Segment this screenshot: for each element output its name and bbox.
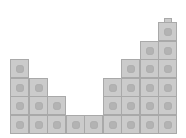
cube (103, 78, 122, 97)
cube-dot-icon (16, 121, 24, 129)
cube-dot-icon (16, 102, 24, 110)
cube (158, 41, 177, 60)
cube-stack-diagram (0, 0, 186, 138)
cube (140, 78, 159, 97)
cube (47, 96, 66, 115)
cube-dot-icon (16, 65, 24, 73)
cube (121, 59, 140, 78)
cube-dot-icon (164, 84, 172, 92)
cube (103, 115, 122, 134)
cube (121, 96, 140, 115)
cube (10, 115, 29, 134)
cube-dot-icon (164, 102, 172, 110)
cube-dot-icon (164, 121, 172, 129)
cube-dot-icon (35, 84, 43, 92)
cube-dot-icon (164, 47, 172, 55)
cube-dot-icon (90, 121, 98, 129)
cube-dot-icon (164, 65, 172, 73)
cube (84, 115, 103, 134)
cube-dot-icon (127, 84, 135, 92)
cube-dot-icon (16, 84, 24, 92)
cube-dot-icon (127, 121, 135, 129)
cube-dot-icon (146, 65, 154, 73)
cube (29, 78, 48, 97)
cube (10, 96, 29, 115)
cube-dot-icon (109, 102, 117, 110)
cube (140, 41, 159, 60)
cube-dot-icon (146, 121, 154, 129)
cube (47, 115, 66, 134)
cube (121, 115, 140, 134)
cube-dot-icon (146, 102, 154, 110)
cube-dot-icon (146, 84, 154, 92)
cube (29, 115, 48, 134)
cube-dot-icon (164, 28, 172, 36)
cube-dot-icon (109, 84, 117, 92)
cube-dot-icon (35, 121, 43, 129)
cube (158, 115, 177, 134)
cube (140, 115, 159, 134)
cube (10, 78, 29, 97)
cube-dot-icon (146, 47, 154, 55)
cube (29, 96, 48, 115)
cube (140, 59, 159, 78)
cube (140, 96, 159, 115)
cube-dot-icon (35, 102, 43, 110)
cube-dot-icon (127, 65, 135, 73)
cube (103, 96, 122, 115)
cube-dot-icon (72, 121, 80, 129)
cube (158, 96, 177, 115)
cube-nub (164, 18, 172, 22)
cube (121, 78, 140, 97)
cube-dot-icon (109, 121, 117, 129)
cube (158, 22, 177, 41)
cube-dot-icon (53, 102, 61, 110)
cube-dot-icon (127, 102, 135, 110)
cube-dot-icon (53, 121, 61, 129)
cube (10, 59, 29, 78)
cube (66, 115, 85, 134)
cube (158, 78, 177, 97)
cube (158, 59, 177, 78)
